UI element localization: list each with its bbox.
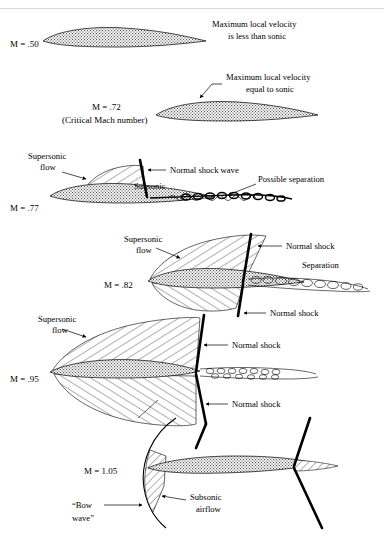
mach-label-m082: M = .82 [104, 280, 133, 290]
subsonic-label: Subsonic [134, 181, 166, 191]
subsonic-airflow-label-line1: Subsonic [190, 492, 222, 502]
figure-canvas: M = .50 Maximum local velocity is less t… [0, 0, 384, 536]
mach-label-m095: M = .95 [10, 374, 39, 384]
subsonic-airflow-label-line2: airflow [196, 504, 222, 514]
supersonic-flow-leader [62, 172, 86, 179]
lower-supersonic-region [54, 374, 196, 426]
supersonic-flow-label-line2: flow [136, 245, 153, 255]
possible-separation-leader [228, 184, 256, 195]
panel-m082: Supersonic flow Normal shock Normal shoc… [104, 234, 370, 318]
supersonic-flow-label-line1: Supersonic [38, 314, 76, 324]
separation-wake [200, 368, 318, 380]
panel-m072: M = .72 (Critical Mach number) Maximum l… [62, 72, 318, 125]
supersonic-flow-label-line1: Supersonic [124, 234, 162, 244]
trailing-edge-shock-upper [294, 418, 310, 466]
supersonic-flow-leader [156, 248, 180, 258]
airfoil-body [148, 456, 318, 473]
mach-label-m072: M = .72 [92, 102, 121, 112]
subsonic-airflow-leader [162, 496, 186, 500]
mach-label-m077: M = .77 [10, 203, 39, 213]
normal-shock-upper-label: Normal shock [232, 340, 281, 350]
lower-normal-shock [196, 374, 206, 424]
normal-shock-wave-label: Normal shock wave [170, 165, 239, 175]
trailing-wedge [294, 460, 338, 471]
sonic-point-leader [200, 84, 222, 98]
mach-label-m105: M = 1.05 [84, 466, 118, 476]
mach-label-m050: M = .50 [10, 39, 39, 49]
possible-separation-label: Possible separation [258, 174, 325, 184]
trailing-edge-shock-lower [294, 468, 322, 528]
normal-shock-upper-label: Normal shock [286, 241, 335, 251]
mach-sublabel-m072: (Critical Mach number) [62, 115, 147, 125]
separation-label: Separation [302, 260, 339, 270]
supersonic-flow-label-line2: flow [52, 325, 69, 335]
panel-m095: Supersonic flow Normal shock Normal shoc… [10, 314, 318, 426]
sonic-point-note-line2: equal to sonic [246, 84, 294, 94]
bow-wave-label-line2: wave” [72, 513, 94, 523]
panel-m077: Supersonic flow Normal shock wave Subson… [10, 151, 325, 213]
supersonic-flow-label-line2: flow [40, 162, 57, 172]
transonic-flow-diagram: M = .50 Maximum local velocity is less t… [0, 0, 384, 536]
airfoil-body [43, 28, 206, 47]
panel-m105: M = 1.05 “Bow wave” Subsonic airflow [72, 418, 338, 528]
bow-wave-label-line1: “Bow [72, 500, 93, 510]
supersonic-flow-label-line1: Supersonic [28, 151, 66, 161]
normal-shock-lower-label: Normal shock [232, 399, 281, 409]
panel-m050: M = .50 Maximum local velocity is less t… [10, 19, 297, 49]
airfoil-body [156, 102, 318, 121]
airfoil-body [50, 184, 214, 204]
upper-stray-shock [196, 424, 206, 448]
max-velocity-note-line1: Maximum local velocity [212, 19, 297, 29]
max-velocity-note-line2: is less than sonic [228, 31, 286, 41]
normal-shock-lower-label: Normal shock [270, 308, 319, 318]
sonic-point-note-line1: Maximum local velocity [226, 72, 311, 82]
